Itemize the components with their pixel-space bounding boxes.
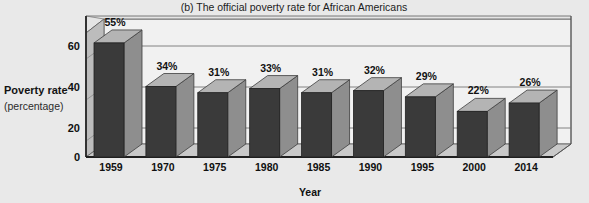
bar-front-face [94,43,124,157]
bar-1995[interactable] [405,84,453,157]
poverty-rate-bar-chart: (b) The official poverty rate for Africa… [0,0,589,203]
y-axis-subtitle: (percentage) [4,100,64,112]
category-label-1995: 1995 [411,161,435,173]
bar-side-face [383,78,401,157]
bar-side-face [176,74,194,158]
value-label-2014: 26% [520,76,542,88]
bar-side-face [280,76,298,157]
bar-front-face [250,89,280,157]
category-label-1975: 1975 [203,161,227,173]
bar-1985[interactable] [302,80,350,157]
bar-side-face [228,80,246,157]
bar-1970[interactable] [146,74,194,158]
bar-2000[interactable] [457,98,505,157]
y-tick-60: 60 [68,40,80,52]
bar-1959[interactable] [94,30,142,157]
bar-side-face [124,30,142,157]
category-label-1990: 1990 [359,161,383,173]
bar-2014[interactable] [509,90,557,157]
category-label-2014: 2014 [514,161,538,173]
value-label-1990: 32% [364,64,386,76]
bar-front-face [302,93,332,157]
bar-front-face [509,103,539,157]
value-label-1975: 31% [208,66,230,78]
value-label-1995: 29% [416,70,438,82]
y-tick-0: 0 [74,151,80,163]
bar-1980[interactable] [250,76,298,157]
bar-1975[interactable] [198,80,246,157]
category-label-1959: 1959 [99,161,123,173]
value-label-1970: 34% [156,60,178,72]
category-label-1985: 1985 [307,161,331,173]
bar-front-face [457,111,487,157]
value-label-2000: 22% [468,84,490,96]
chart-title: (b) The official poverty rate for Africa… [181,1,408,13]
category-label-1970: 1970 [151,161,175,173]
bar-front-face [198,93,228,157]
bar-front-face [353,91,383,157]
category-label-1980: 1980 [255,161,279,173]
x-axis-title: Year [299,186,321,198]
value-label-1985: 31% [312,66,334,78]
bar-1990[interactable] [353,78,401,157]
value-label-1980: 33% [260,62,282,74]
bar-front-face [146,87,176,158]
y-tick-20: 20 [68,122,80,134]
y-tick-40: 40 [68,81,80,93]
category-labels: 195919701975198019851990199520002014 [99,161,538,173]
value-label-1959: 55% [104,16,126,28]
y-axis-title: Poverty rate [4,84,68,96]
bar-front-face [405,97,435,157]
bar-side-face [332,80,350,157]
category-label-2000: 2000 [463,161,487,173]
chart-container: (b) The official poverty rate for Africa… [0,0,589,203]
